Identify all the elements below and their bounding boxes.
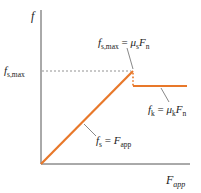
static-equation-label: fs = Fapp xyxy=(96,134,132,149)
kinetic-leader-line xyxy=(161,88,169,102)
y-axis-label: f xyxy=(31,9,36,23)
kinetic-equation-label: fk = μkFn xyxy=(148,103,187,118)
static-friction-line xyxy=(41,71,133,164)
fsmax-tick-label: fs,max xyxy=(4,64,25,79)
static-leader-line xyxy=(84,124,96,136)
x-axis-label: Fapp xyxy=(165,173,185,189)
peak-equation-label: fs,max = μsFn xyxy=(98,36,150,51)
peak-leader-line xyxy=(127,48,133,69)
friction-diagram: f Fapp fs,max fs,max = μsFn fk = μkFn fs… xyxy=(0,0,201,193)
